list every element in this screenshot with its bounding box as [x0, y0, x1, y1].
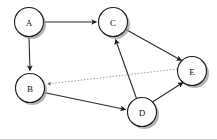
- node-b-label: B: [27, 84, 33, 94]
- node-b[interactable]: B: [16, 74, 45, 103]
- edge-b-to-d: [44, 93, 126, 110]
- edge-e-to-b: [48, 69, 178, 84]
- graph-canvas: A B C D E: [0, 0, 217, 140]
- edge-d-to-c: [116, 40, 137, 99]
- node-a-label: A: [26, 18, 33, 28]
- node-d[interactable]: D: [128, 98, 157, 127]
- node-e-label: E: [189, 67, 195, 77]
- node-c-label: C: [110, 18, 116, 28]
- node-layer: A B C D E: [15, 8, 207, 127]
- edge-c-to-e: [126, 30, 182, 61]
- node-c[interactable]: C: [99, 8, 128, 37]
- node-e[interactable]: E: [178, 57, 207, 86]
- edge-d-to-e: [153, 83, 184, 103]
- edge-a-to-b: [29, 37, 30, 71]
- node-a[interactable]: A: [15, 8, 44, 37]
- figure-bottom-border: [0, 139, 217, 140]
- node-d-label: D: [139, 108, 146, 118]
- graph-figure: A B C D E: [0, 0, 217, 140]
